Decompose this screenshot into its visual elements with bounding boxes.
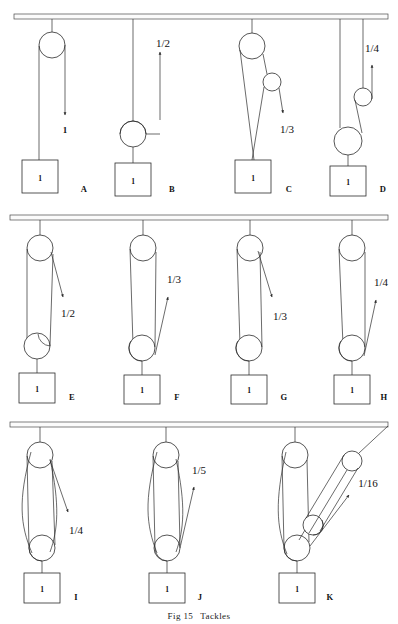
- panel-c: 1/3 1 C: [235, 19, 295, 194]
- panel-a-effort-label: 1: [63, 125, 68, 135]
- panel-letter-b: B: [169, 184, 175, 194]
- panel-e: 1/2 1 E: [19, 220, 75, 403]
- ceiling-beam-row-2: [10, 215, 388, 220]
- panel-letter-j: J: [198, 592, 203, 602]
- panel-j-effort-label: 1/5: [192, 464, 207, 476]
- panel-j-load-label: 1: [165, 585, 169, 594]
- panel-letter-h: H: [381, 392, 388, 402]
- ceiling-beam-row-1: [14, 14, 388, 19]
- figure-caption-title: Tackles: [200, 611, 230, 621]
- panel-k: 1/16 1 K: [278, 426, 388, 603]
- panel-j: 1/5 1 J: [148, 427, 207, 603]
- tackles-figure: 1 1 A 1/2 1 B 1/3: [0, 0, 398, 624]
- panel-g: 1/3 1 G: [231, 220, 288, 404]
- panel-k-load-label: 1: [295, 585, 299, 594]
- panel-f-effort-label: 1/3: [167, 273, 182, 285]
- ceiling-beam-row-3: [10, 422, 388, 427]
- panel-b: 1/2 1 B: [115, 19, 175, 196]
- panel-a-load-label: 1: [38, 174, 42, 183]
- panel-h-effort-label: 1/4: [374, 276, 389, 288]
- panel-c-effort-label: 1/3: [280, 123, 295, 135]
- figure-caption: Fig 15Tackles: [0, 611, 398, 621]
- panel-d-effort-label: 1/4: [365, 42, 380, 54]
- panel-letter-i: I: [74, 592, 78, 602]
- panel-b-load-label: 1: [131, 177, 135, 186]
- panel-g-effort-label: 1/3: [273, 310, 288, 322]
- panel-i-load-label: 1: [40, 585, 44, 594]
- panel-letter-e: E: [69, 392, 75, 402]
- panel-b-effort-label: 1/2: [156, 37, 170, 49]
- panel-k-effort-label: 1/16: [358, 477, 378, 489]
- panel-letter-g: G: [281, 392, 288, 402]
- panel-letter-c: C: [286, 184, 292, 194]
- panel-f-load-label: 1: [140, 386, 144, 395]
- figure-caption-label: Fig 15: [168, 611, 194, 621]
- figure-page: 1 1 A 1/2 1 B 1/3: [0, 0, 398, 624]
- panel-d: 1/4 1 D: [330, 19, 386, 196]
- panel-a: 1 1 A: [22, 19, 88, 194]
- panel-g-load-label: 1: [247, 386, 251, 395]
- panel-letter-f: F: [174, 392, 179, 402]
- panel-i: 1/4 1 I: [22, 427, 83, 603]
- panel-h: 1/4 1 H: [334, 220, 389, 404]
- panel-i-effort-label: 1/4: [69, 524, 84, 536]
- panel-letter-a: A: [81, 184, 88, 194]
- panel-e-effort-label: 1/2: [61, 307, 75, 319]
- panel-c-load-label: 1: [251, 174, 255, 183]
- panel-letter-d: D: [380, 184, 386, 194]
- panel-f: 1/3 1 F: [124, 220, 182, 404]
- panel-e-load-label: 1: [35, 385, 39, 394]
- panel-h-load-label: 1: [350, 386, 354, 395]
- panel-letter-k: K: [327, 592, 334, 602]
- panel-d-load-label: 1: [346, 178, 350, 187]
